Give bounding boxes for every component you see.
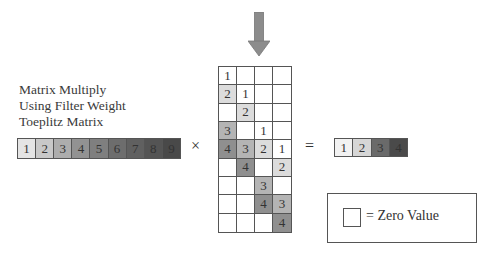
matrix-cell: 1: [255, 122, 273, 140]
matrix-cell: 2: [219, 85, 237, 103]
matrix-cell: 4: [219, 140, 237, 158]
matrix-cell: 1: [273, 140, 291, 158]
matrix-cell: [255, 67, 273, 85]
input-vector-cell: 2: [36, 139, 54, 158]
output-vector-cell: 4: [390, 139, 407, 156]
matrix-cell: 1: [237, 85, 255, 103]
matrix-cell: [273, 122, 291, 140]
input-vector-cell: 5: [90, 139, 108, 158]
matrix-cell: [219, 104, 237, 122]
down-arrow-icon: [248, 12, 270, 56]
matrix-cell: [255, 85, 273, 103]
matrix-cell: [273, 67, 291, 85]
equals-operator: =: [305, 137, 314, 155]
multiply-operator: ×: [191, 137, 200, 155]
input-vector-cell: 7: [127, 139, 145, 158]
matrix-cell: 3: [237, 140, 255, 158]
matrix-cell: 1: [219, 67, 237, 85]
matrix-cell: 2: [273, 159, 291, 177]
matrix-cell: 2: [255, 140, 273, 158]
output-vector-cell: 3: [372, 139, 390, 156]
caption-line: Toeplitz Matrix: [19, 114, 126, 130]
matrix-cell: [273, 177, 291, 195]
matrix-cell: 4: [273, 214, 291, 232]
matrix-cell: [219, 214, 237, 232]
matrix-cell: [237, 177, 255, 195]
matrix-cell: 2: [237, 104, 255, 122]
matrix-cell: [255, 214, 273, 232]
input-vector-cell: 4: [72, 139, 90, 158]
matrix-cell: [237, 122, 255, 140]
matrix-cell: 4: [255, 195, 273, 213]
input-vector-cell: 9: [163, 139, 180, 158]
matrix-cell: [255, 104, 273, 122]
zero-value-swatch: [343, 208, 361, 227]
output-vector: 1234: [334, 138, 408, 157]
output-vector-cell: 2: [353, 139, 371, 156]
matrix-cell: [237, 195, 255, 213]
input-vector: 123456789: [17, 138, 181, 159]
input-vector-cell: 1: [18, 139, 36, 158]
matrix-cell: 3: [219, 122, 237, 140]
caption-line: Using Filter Weight: [19, 98, 126, 114]
caption-line: Matrix Multiply: [19, 82, 126, 98]
output-vector-cell: 1: [335, 139, 353, 156]
matrix-cell: [255, 159, 273, 177]
matrix-cell: [219, 177, 237, 195]
legend-label: = Zero Value: [366, 208, 439, 224]
matrix-cell: [219, 195, 237, 213]
matrix-cell: [219, 159, 237, 177]
toeplitz-matrix: 1212314321423434: [218, 66, 292, 233]
matrix-cell: 3: [273, 195, 291, 213]
diagram-caption: Matrix Multiply Using Filter Weight Toep…: [19, 82, 126, 130]
input-vector-cell: 3: [54, 139, 72, 158]
input-vector-cell: 6: [109, 139, 127, 158]
matrix-cell: [273, 104, 291, 122]
matrix-cell: 4: [237, 159, 255, 177]
matrix-cell: [237, 67, 255, 85]
matrix-cell: [237, 214, 255, 232]
matrix-cell: 3: [255, 177, 273, 195]
legend: = Zero Value: [327, 193, 477, 243]
input-vector-cell: 8: [145, 139, 163, 158]
matrix-cell: [273, 85, 291, 103]
